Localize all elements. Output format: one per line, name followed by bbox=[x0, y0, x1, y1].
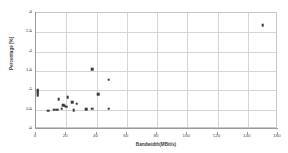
data-point bbox=[97, 93, 100, 96]
x-tick-mark bbox=[247, 132, 248, 135]
gridline-vertical bbox=[248, 13, 249, 127]
y-tick-mark bbox=[29, 109, 32, 110]
y-axis-tick-labels: 00.511.522.53 bbox=[0, 12, 32, 128]
gridline-vertical bbox=[187, 13, 188, 127]
gridline-vertical bbox=[218, 13, 219, 127]
gridline-vertical bbox=[66, 13, 67, 127]
gridline-vertical bbox=[127, 13, 128, 127]
y-tick-mark bbox=[29, 128, 32, 129]
x-tick-mark bbox=[65, 132, 66, 135]
gridline-horizontal bbox=[36, 32, 276, 33]
gridline-horizontal bbox=[36, 90, 276, 91]
y-axis-line bbox=[35, 12, 36, 129]
gridline-vertical bbox=[157, 13, 158, 127]
data-point bbox=[107, 107, 110, 110]
x-tick-mark bbox=[35, 132, 36, 135]
data-point bbox=[57, 98, 60, 101]
x-tick-mark bbox=[156, 132, 157, 135]
data-point bbox=[107, 79, 110, 82]
gridline-vertical bbox=[97, 13, 98, 127]
data-point bbox=[60, 108, 63, 111]
data-point bbox=[73, 109, 76, 112]
y-tick-mark bbox=[29, 89, 32, 90]
gridline-horizontal bbox=[36, 52, 276, 53]
data-point bbox=[65, 105, 68, 108]
data-point bbox=[85, 108, 88, 111]
y-tick-mark bbox=[29, 31, 32, 32]
data-point bbox=[56, 108, 59, 111]
x-tick-mark bbox=[277, 132, 278, 135]
y-tick-mark bbox=[29, 70, 32, 71]
data-point bbox=[47, 110, 50, 113]
x-tick-mark bbox=[126, 132, 127, 135]
gridline-horizontal bbox=[36, 71, 276, 72]
x-axis-title: Bandwidth(MBit/s) bbox=[35, 142, 277, 147]
x-tick-mark bbox=[96, 132, 97, 135]
data-point bbox=[76, 103, 79, 106]
data-point bbox=[66, 96, 69, 99]
y-tick-mark bbox=[29, 51, 32, 52]
y-tick-mark bbox=[29, 12, 32, 13]
data-point bbox=[91, 68, 94, 71]
data-point bbox=[36, 94, 39, 97]
data-point bbox=[91, 108, 94, 111]
data-point bbox=[262, 24, 265, 27]
x-tick-mark bbox=[217, 132, 218, 135]
x-tick-mark bbox=[186, 132, 187, 135]
plot-area bbox=[35, 12, 277, 128]
data-point bbox=[71, 101, 74, 104]
x-axis-line bbox=[35, 128, 278, 129]
x-axis-tick-labels: 020406080100120140160 bbox=[35, 132, 277, 140]
scatter-chart-figure: Percentage [%] 00.511.522.53 02040608010… bbox=[0, 0, 288, 153]
